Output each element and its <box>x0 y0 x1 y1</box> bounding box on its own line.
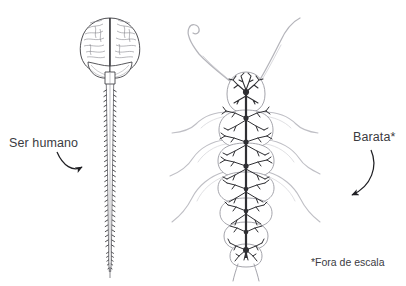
leg-hind-left <box>172 172 224 222</box>
leg-mid-right <box>267 140 320 174</box>
cockroach-illustration <box>170 18 320 281</box>
antenna-right <box>256 18 300 86</box>
leg-hind-right <box>268 172 320 222</box>
leg-mid-left <box>170 140 225 176</box>
brain-illustration <box>80 18 139 84</box>
human-nervous-system <box>80 18 139 278</box>
human-pointer-arrow <box>57 152 82 169</box>
cercus-right <box>254 264 259 281</box>
figure-canvas: Ser humano Barata* *Fora de escala <box>0 0 406 286</box>
footnote-fora-de-escala: *Fora de escala <box>311 256 385 268</box>
label-barata: Barata* <box>353 130 395 144</box>
antenna-left <box>188 25 236 86</box>
roach-pointer-arrow <box>352 150 374 195</box>
cercus-left <box>233 264 238 281</box>
label-ser-humano: Ser humano <box>9 136 78 150</box>
spinal-cord <box>104 84 116 278</box>
